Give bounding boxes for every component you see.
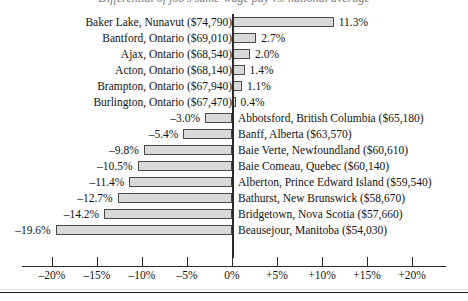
x-axis-tick xyxy=(187,257,188,266)
bar-value-label: –12.7% xyxy=(77,190,112,206)
x-axis-tick-label: +5% xyxy=(266,268,288,282)
bar-value-label: –19.6% xyxy=(15,222,50,238)
bar-value-label: 11.3% xyxy=(339,14,368,30)
bar xyxy=(232,33,256,43)
bar-value-label: –3.0% xyxy=(170,110,200,126)
chart-rows: 11.3%Baker Lake, Nunavut ($74,790)2.7%Ba… xyxy=(0,14,468,238)
chart-row: –11.4%Alberton, Prince Edward Island ($5… xyxy=(0,174,468,190)
category-label: Baker Lake, Nunavut ($74,790) xyxy=(85,14,232,30)
category-label: Baie Verte, Newfoundland ($60,610) xyxy=(238,142,408,158)
bar-value-label: 2.7% xyxy=(261,30,285,46)
category-label: Acton, Ontario ($68,140) xyxy=(115,62,232,78)
x-axis-tick xyxy=(367,257,368,266)
category-label: Abbotsford, British Columbia ($65,180) xyxy=(238,110,424,126)
x-axis-tick-label: –10% xyxy=(129,268,156,282)
zero-axis-line xyxy=(232,14,234,258)
x-axis-tick-label: 0% xyxy=(224,268,239,282)
chart-row: –10.5%Baie Comeau, Quebec ($60,140) xyxy=(0,158,468,174)
x-axis-tick-label: +20% xyxy=(398,268,426,282)
category-label: Bridgetown, Nova Scotia ($57,660) xyxy=(238,206,403,222)
chart-row: –12.7%Bathurst, New Brunswick ($58,670) xyxy=(0,190,468,206)
x-axis-tick xyxy=(52,257,53,266)
bar-value-label: –11.4% xyxy=(89,174,124,190)
bar-value-label: 0.4% xyxy=(241,94,265,110)
bar xyxy=(183,129,232,139)
chart-row: 11.3%Baker Lake, Nunavut ($74,790) xyxy=(0,14,468,30)
category-label: Burlington, Ontario ($67,470) xyxy=(93,94,232,110)
bar-value-label: –5.4% xyxy=(149,126,179,142)
bar-chart-figure: Differential of job's same-wage pay vs. … xyxy=(0,0,468,301)
category-label: Bathurst, New Brunswick ($58,670) xyxy=(238,190,405,206)
category-label: Ajax, Ontario ($68,540) xyxy=(121,46,232,62)
chart-row: –9.8%Baie Verte, Newfoundland ($60,610) xyxy=(0,142,468,158)
chart-row: –14.2%Bridgetown, Nova Scotia ($57,660) xyxy=(0,206,468,222)
x-axis-tick xyxy=(412,257,413,266)
chart-row: –5.4%Banff, Alberta ($63,570) xyxy=(0,126,468,142)
bottom-rule-light xyxy=(0,289,468,290)
category-label: Alberton, Prince Edward Island ($59,540) xyxy=(238,174,432,190)
category-label: Baie Comeau, Quebec ($60,140) xyxy=(238,158,389,174)
x-axis-tick-label: –20% xyxy=(39,268,66,282)
chart-row: 1.1%Brampton, Ontario ($67,940) xyxy=(0,78,468,94)
bar xyxy=(144,145,232,155)
bar-value-label: –10.5% xyxy=(97,158,132,174)
bar-value-label: 2.0% xyxy=(255,46,279,62)
bottom-rule xyxy=(0,292,468,293)
bar xyxy=(118,193,232,203)
x-axis-tick xyxy=(142,257,143,266)
chart-title-clipped: Differential of job's same-wage pay vs. … xyxy=(0,0,468,8)
bar xyxy=(104,209,232,219)
category-label: Banff, Alberta ($63,570) xyxy=(238,126,351,142)
category-label: Beausejour, Manitoba ($54,030) xyxy=(238,222,387,238)
bar-value-label: 1.4% xyxy=(250,62,274,78)
bar xyxy=(205,113,232,123)
chart-row: –19.6%Beausejour, Manitoba ($54,030) xyxy=(0,222,468,238)
bar xyxy=(138,161,233,171)
category-label: Brampton, Ontario ($67,940) xyxy=(97,78,232,94)
x-axis-tick xyxy=(277,257,278,266)
x-axis-tick xyxy=(322,257,323,266)
bar xyxy=(129,177,232,187)
chart-row: –3.0%Abbotsford, British Columbia ($65,1… xyxy=(0,110,468,126)
chart-title-text: Differential of job's same-wage pay vs. … xyxy=(98,0,369,6)
x-axis-line xyxy=(22,266,446,267)
bar-value-label: 1.1% xyxy=(247,78,271,94)
x-axis-tick-label: +10% xyxy=(308,268,336,282)
x-axis-tick-label: –5% xyxy=(176,268,197,282)
x-axis-tick-label: +15% xyxy=(353,268,381,282)
bar-value-label: –14.2% xyxy=(64,206,99,222)
chart-row: 1.4%Acton, Ontario ($68,140) xyxy=(0,62,468,78)
x-axis-tick xyxy=(232,257,233,266)
x-axis-tick-label: –15% xyxy=(84,268,111,282)
chart-row: 2.0%Ajax, Ontario ($68,540) xyxy=(0,46,468,62)
x-axis-tick xyxy=(97,257,98,266)
chart-row: 0.4%Burlington, Ontario ($67,470) xyxy=(0,94,468,110)
category-label: Bantford, Ontario ($69,010) xyxy=(102,30,232,46)
bar xyxy=(56,225,232,235)
bar xyxy=(232,49,250,59)
chart-row: 2.7%Bantford, Ontario ($69,010) xyxy=(0,30,468,46)
bar xyxy=(232,17,334,27)
bar-value-label: –9.8% xyxy=(109,142,139,158)
